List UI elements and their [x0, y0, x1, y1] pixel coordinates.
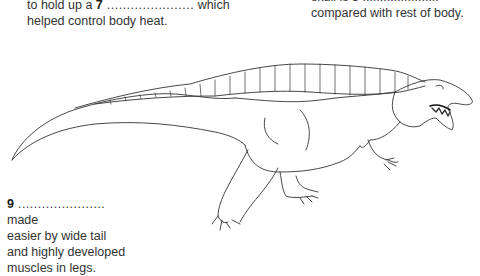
arm	[368, 140, 398, 162]
back-sail	[75, 64, 425, 108]
body-outline	[235, 92, 395, 102]
annotation-8: skull is 8 ...................... compar…	[311, 0, 480, 21]
dinosaur-illustration	[0, 30, 480, 261]
hind-leg	[218, 150, 248, 223]
annotation-7-line2: helped control body heat.	[27, 13, 237, 29]
annotation-7: to hold up a 7 ...................... wh…	[27, 0, 237, 29]
eye-icon	[436, 85, 443, 89]
question-number-7: 7	[96, 0, 103, 12]
answer-blank-7[interactable]: ......................	[103, 0, 194, 12]
annotation-7-line1: to hold up a 7 ...................... wh…	[27, 0, 237, 13]
annotation-9-line4: muscles in legs.	[7, 260, 137, 276]
tail-outline	[12, 94, 235, 160]
annotation-8-line1: compared with rest of body.	[311, 5, 480, 21]
